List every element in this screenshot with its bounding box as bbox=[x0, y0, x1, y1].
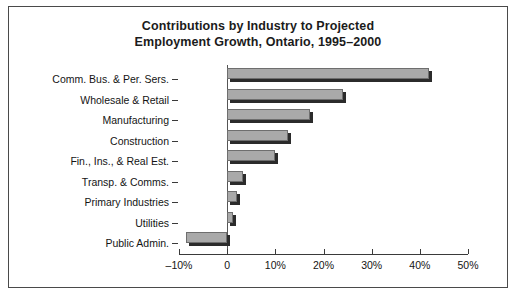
bar bbox=[227, 212, 233, 223]
x-axis-tick-label: –10% bbox=[166, 259, 193, 271]
x-axis-tick-label: 0 bbox=[224, 259, 230, 271]
category-tick bbox=[172, 100, 178, 101]
category-tick bbox=[172, 79, 178, 80]
x-axis-tick bbox=[324, 249, 325, 254]
x-axis-tick-label: 50% bbox=[457, 259, 478, 271]
category-tick bbox=[172, 141, 178, 142]
x-axis-tick-label: 30% bbox=[361, 259, 382, 271]
x-axis-tick bbox=[275, 249, 276, 254]
bar bbox=[227, 109, 310, 120]
bar bbox=[227, 150, 275, 161]
category-tick bbox=[172, 182, 178, 183]
category-label: Utilities bbox=[0, 217, 169, 229]
category-label: Wholesale & Retail bbox=[0, 94, 169, 106]
x-axis-tick-label: 20% bbox=[313, 259, 334, 271]
bar bbox=[227, 130, 288, 141]
bar bbox=[186, 232, 227, 243]
x-axis-line bbox=[179, 254, 468, 255]
x-axis-tick-label: 10% bbox=[265, 259, 286, 271]
category-label: Public Admin. bbox=[0, 237, 169, 249]
category-tick bbox=[172, 223, 178, 224]
category-label: Construction bbox=[0, 135, 169, 147]
x-axis-tick bbox=[420, 249, 421, 254]
category-tick bbox=[172, 202, 178, 203]
category-label: Fin., Ins., & Real Est. bbox=[0, 155, 169, 167]
category-label: Manufacturing bbox=[0, 114, 169, 126]
category-tick bbox=[172, 120, 178, 121]
bar bbox=[227, 89, 343, 100]
category-tick bbox=[172, 243, 178, 244]
x-axis-tick-label: 40% bbox=[409, 259, 430, 271]
x-axis-tick bbox=[372, 249, 373, 254]
x-axis-tick bbox=[179, 249, 180, 254]
category-label: Primary Industries bbox=[0, 196, 169, 208]
category-label: Comm. Bus. & Per. Sers. bbox=[0, 73, 169, 85]
category-tick bbox=[172, 161, 178, 162]
x-axis-tick bbox=[227, 249, 228, 254]
plot-area: –10%010%20%30%40%50%Comm. Bus. & Per. Se… bbox=[9, 7, 509, 289]
chart-frame: Contributions by Industry to Projected E… bbox=[8, 6, 508, 288]
x-axis-tick bbox=[468, 249, 469, 254]
bar bbox=[227, 191, 237, 202]
bar bbox=[227, 171, 243, 182]
bar bbox=[227, 68, 429, 79]
category-label: Transp. & Comms. bbox=[0, 176, 169, 188]
